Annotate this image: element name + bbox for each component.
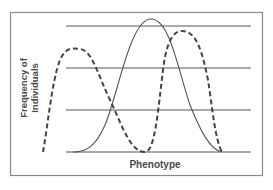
y-axis-label-line2: Individuals [29,63,40,113]
dashed-bimodal-curve [43,31,222,152]
horizontal-gridlines [66,26,251,152]
solid-bell-curve [73,19,222,152]
diagram-frame: Phenotype Frequency of Individuals [0,0,273,190]
y-axis-label-line1: Frequency of [18,57,29,117]
y-axis-label-group: Frequency of Individuals [18,57,40,117]
x-axis-label: Phenotype [129,159,181,170]
phenotype-distribution-diagram: Phenotype Frequency of Individuals [0,0,273,190]
diagram-border [11,13,263,176]
